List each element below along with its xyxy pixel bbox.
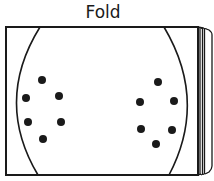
dot xyxy=(55,92,63,100)
dot xyxy=(137,125,145,133)
dot xyxy=(22,94,30,102)
dot xyxy=(154,78,162,86)
dot xyxy=(168,126,176,134)
stacked-pages xyxy=(198,27,212,175)
dot xyxy=(57,118,65,126)
dot xyxy=(152,140,160,148)
paper-sheet xyxy=(6,27,198,175)
dot xyxy=(136,98,144,106)
folded-paper-diagram xyxy=(0,0,214,181)
dot xyxy=(39,135,47,143)
dot xyxy=(24,118,32,126)
dot xyxy=(170,97,178,105)
dot xyxy=(38,76,46,84)
